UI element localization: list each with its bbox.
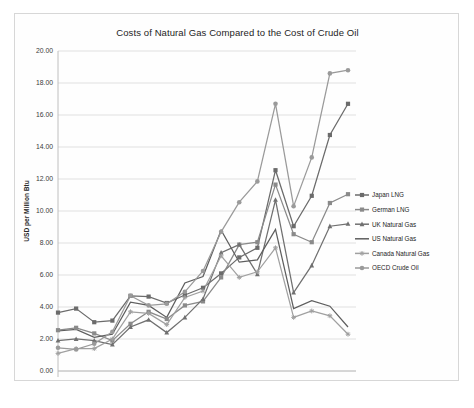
series-data-point xyxy=(56,328,60,332)
series-data-point xyxy=(309,263,314,268)
series-data-point xyxy=(92,320,96,324)
legend-item-label: Canada Natural Gas xyxy=(372,250,429,257)
series-line xyxy=(58,70,348,349)
series-data-point xyxy=(201,289,206,294)
series-data-point xyxy=(219,253,224,258)
series-data-point xyxy=(92,331,96,335)
y-axis-title: USD per Million Btu xyxy=(23,180,31,242)
series-data-point xyxy=(74,307,78,311)
series-data-point xyxy=(309,309,314,314)
series-data-point xyxy=(146,317,151,322)
y-axis-tick-label: 12.00 xyxy=(36,175,53,182)
series-data-point xyxy=(255,269,260,274)
series-data-point xyxy=(310,194,314,198)
y-axis-tick-label: 20.00 xyxy=(36,47,53,54)
series-data-point xyxy=(346,68,351,73)
series-data-point xyxy=(237,255,241,259)
series-data-point xyxy=(74,347,79,352)
legend-item-label: OECD Crude Oil xyxy=(372,264,419,271)
y-axis-tick-label: 6.00 xyxy=(40,271,53,278)
series-data-point xyxy=(92,342,97,347)
series-data-point xyxy=(328,201,332,205)
series-data-point xyxy=(128,309,133,314)
series-data-point xyxy=(146,303,151,308)
series-data-point xyxy=(292,224,296,228)
legend-item-label: Japan LNG xyxy=(372,191,404,199)
y-axis-tick-label: 0.00 xyxy=(40,367,53,374)
series-data-point xyxy=(165,317,169,321)
series-data-point xyxy=(56,346,61,351)
series-data-point xyxy=(255,246,259,250)
series-data-point xyxy=(164,322,169,327)
series-data-point xyxy=(273,102,278,107)
series-data-point xyxy=(110,330,115,335)
legend-item-label: German LNG xyxy=(372,206,410,213)
series-data-point xyxy=(273,183,277,187)
legend-swatch-marker xyxy=(360,193,364,197)
series-data-point xyxy=(255,240,259,244)
legend-swatch-marker xyxy=(360,251,365,256)
series-data-point xyxy=(201,269,206,274)
line-chart-plot: 0.002.004.006.008.0010.0012.0014.0016.00… xyxy=(15,14,460,382)
series-data-point xyxy=(346,192,350,196)
y-axis-tick-label: 2.00 xyxy=(40,335,53,342)
series-data-point xyxy=(346,102,350,106)
page-margin-right xyxy=(460,0,474,408)
series-data-point xyxy=(110,337,115,342)
series-data-point xyxy=(237,200,242,205)
legend-item-label: US Natural Gas xyxy=(372,235,416,242)
series-data-point xyxy=(146,311,151,316)
series-data-point xyxy=(182,295,187,300)
series-data-point xyxy=(273,245,278,250)
series-data-point xyxy=(183,303,187,307)
series-data-point xyxy=(327,313,332,318)
series-data-point xyxy=(92,346,97,351)
series-data-point xyxy=(346,332,351,337)
series-data-point xyxy=(147,295,151,299)
series-data-point xyxy=(56,351,61,356)
series-data-point xyxy=(128,294,133,299)
y-axis-tick-label: 8.00 xyxy=(40,239,53,246)
y-axis-tick-label: 14.00 xyxy=(36,143,53,150)
series-data-point xyxy=(56,311,60,315)
series-data-point xyxy=(328,133,332,137)
legend-swatch-marker xyxy=(360,208,364,212)
series-data-point xyxy=(110,319,114,323)
series-data-point xyxy=(74,326,78,330)
series-data-point xyxy=(273,197,278,202)
series-data-point xyxy=(291,204,296,209)
y-axis-tick-label: 16.00 xyxy=(36,111,53,118)
series-data-point xyxy=(164,302,169,307)
page-margin-left xyxy=(0,0,14,408)
y-axis-tick-label: 4.00 xyxy=(40,303,53,310)
series-data-point xyxy=(310,240,314,244)
series-data-point xyxy=(291,315,296,320)
series-data-point xyxy=(309,155,314,160)
chart-container: Costs of Natural Gas Compared to the Cos… xyxy=(14,13,459,381)
legend-item-label: UK Natural Gas xyxy=(372,221,416,228)
series-data-point xyxy=(273,168,277,172)
series-data-point xyxy=(219,275,223,279)
series-data-point xyxy=(237,275,242,280)
series-data-point xyxy=(255,179,260,184)
y-axis-tick-label: 18.00 xyxy=(36,79,53,86)
series-data-point xyxy=(292,232,296,236)
series-data-point xyxy=(328,71,333,76)
series-data-point xyxy=(219,271,223,275)
series-data-point xyxy=(183,290,188,295)
y-axis-tick-label: 10.00 xyxy=(36,207,53,214)
series-data-point xyxy=(219,230,224,235)
legend-swatch-marker xyxy=(360,266,365,271)
page-footer-area xyxy=(0,381,474,408)
